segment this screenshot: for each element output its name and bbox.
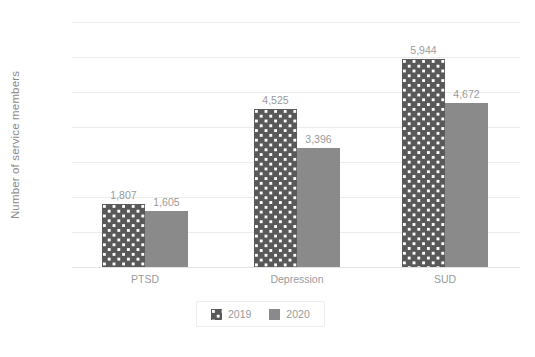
- bar-value-label: 4,525: [262, 94, 288, 106]
- bar-depression-2020[interactable]: 3,396: [297, 148, 340, 267]
- bar-value-label: 3,396: [305, 133, 331, 145]
- x-axis-category-label: SUD: [434, 273, 456, 285]
- x-axis-category-label: PTSD: [131, 273, 159, 285]
- bar-sud-2019[interactable]: 5,944: [402, 59, 445, 267]
- bar-value-label: 5,944: [410, 44, 436, 56]
- legend-item-2020[interactable]: 2020: [269, 308, 309, 320]
- bar-ptsd-2019[interactable]: 1,807: [102, 204, 145, 267]
- chart-legend: 20192020: [196, 301, 325, 327]
- legend-item-2019[interactable]: 2019: [211, 308, 251, 320]
- legend-swatch-2020: [269, 309, 280, 320]
- legend-label: 2019: [228, 308, 251, 320]
- bar-chart: Number of service members 01,0002,0003,0…: [0, 0, 535, 357]
- legend-swatch-2019: [211, 309, 222, 320]
- bar-group: 1,8071,605PTSD: [102, 22, 188, 267]
- y-axis-title: Number of service members: [0, 0, 30, 290]
- bar-value-label: 1,605: [153, 196, 179, 208]
- bar-group: 5,9444,672SUD: [402, 22, 488, 267]
- bar-ptsd-2020[interactable]: 1,605: [145, 211, 188, 267]
- bar-sud-2020[interactable]: 4,672: [445, 103, 488, 267]
- bar-group: 4,5253,396Depression: [254, 22, 340, 267]
- gridline: [72, 267, 520, 268]
- x-axis-category-label: Depression: [270, 273, 323, 285]
- y-axis-title-text: Number of service members: [9, 71, 21, 219]
- bar-depression-2019[interactable]: 4,525: [254, 109, 297, 267]
- legend-label: 2020: [286, 308, 309, 320]
- bar-groups: 1,8071,605PTSD4,5253,396Depression5,9444…: [72, 22, 520, 267]
- bar-value-label: 4,672: [453, 88, 479, 100]
- plot-area: 01,0002,0003,0004,0005,0006,0007,000 1,8…: [72, 22, 520, 267]
- bar-value-label: 1,807: [110, 189, 136, 201]
